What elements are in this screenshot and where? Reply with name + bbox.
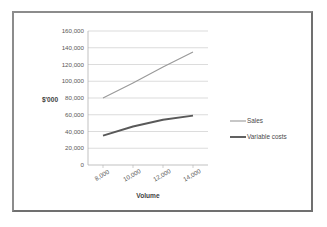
y-tick-label-160000: 160,000 <box>62 27 85 34</box>
y-tick-label-0: 0 <box>81 161 85 168</box>
chart-frame: 160,000 140,000 120,000 100,000 80,000 6… <box>12 11 313 212</box>
y-tick-label-80000: 80,000 <box>65 94 84 101</box>
line-chart: 160,000 140,000 120,000 100,000 80,000 6… <box>14 13 311 210</box>
y-tick-label-40000: 40,000 <box>65 128 84 135</box>
y-axis-tick-labels: 160,000 140,000 120,000 100,000 80,000 6… <box>62 27 85 168</box>
y-tick-label-100000: 100,000 <box>62 77 85 84</box>
x-tick-label-12000: 12,000 <box>152 167 172 183</box>
x-tick-label-10000: 10,000 <box>122 167 142 183</box>
legend-label-variable-costs: Variable costs <box>247 133 287 140</box>
x-tick-label-14000: 14,000 <box>182 167 202 183</box>
y-tick-label-120000: 120,000 <box>62 61 85 68</box>
gridlines <box>88 31 208 148</box>
x-axis-title: Volume <box>136 192 160 199</box>
y-tick-label-20000: 20,000 <box>65 144 84 151</box>
series-line-variable-costs <box>103 116 193 136</box>
legend-label-sales: Sales <box>247 117 263 124</box>
legend: Sales Variable costs <box>230 117 287 140</box>
x-axis-tickmarks <box>103 165 193 168</box>
x-tick-label-8000: 8,000 <box>93 168 110 182</box>
y-tick-label-60000: 60,000 <box>65 111 84 118</box>
series-line-sales <box>103 52 193 98</box>
x-axis-tick-labels: 8,000 10,000 12,000 14,000 <box>93 167 202 183</box>
y-tick-label-140000: 140,000 <box>62 44 85 51</box>
y-axis-title: $'000 <box>42 96 59 104</box>
